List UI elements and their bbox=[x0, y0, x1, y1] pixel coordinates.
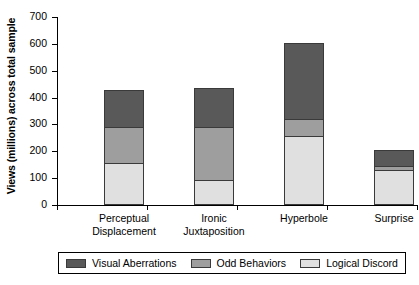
y-axis-tick-label: 0 bbox=[9, 198, 47, 210]
bar-segment[interactable] bbox=[374, 150, 414, 167]
x-axis-tick bbox=[417, 205, 418, 210]
bar-stack[interactable] bbox=[284, 43, 324, 205]
legend-swatch-icon bbox=[300, 259, 320, 268]
category-label-line: Surprise bbox=[344, 212, 419, 225]
y-axis-tick-label: 300 bbox=[9, 117, 47, 129]
bar-segment[interactable] bbox=[194, 127, 234, 181]
bar-stack[interactable] bbox=[104, 90, 144, 205]
x-axis-tick bbox=[237, 205, 238, 210]
legend-swatch-icon bbox=[191, 259, 211, 268]
legend-label: Visual Aberrations bbox=[92, 257, 176, 269]
x-axis-category-label: Hyperbole bbox=[254, 212, 354, 225]
legend-item[interactable]: Logical Discord bbox=[300, 257, 398, 269]
y-axis-tick bbox=[52, 71, 57, 72]
y-axis-tick-label: 600 bbox=[9, 37, 47, 49]
x-axis-category-label: Surprise bbox=[344, 212, 419, 225]
legend-item[interactable]: Odd Behaviors bbox=[191, 257, 286, 269]
y-axis-tick bbox=[52, 98, 57, 99]
y-axis-tick-label: 100 bbox=[9, 171, 47, 183]
plot-area: 0100200300400500600700 bbox=[57, 17, 417, 205]
y-axis-tick bbox=[52, 17, 57, 18]
bar-stack[interactable] bbox=[374, 150, 414, 205]
bar-stack[interactable] bbox=[194, 88, 234, 205]
y-axis-tick bbox=[52, 44, 57, 45]
bar-segment[interactable] bbox=[284, 43, 324, 120]
chart-legend: Visual AberrationsOdd BehaviorsLogical D… bbox=[58, 252, 406, 274]
y-axis-tick bbox=[52, 151, 57, 152]
bar-segment[interactable] bbox=[284, 136, 324, 205]
legend-label: Odd Behaviors bbox=[217, 257, 286, 269]
x-axis-category-label: PerceptualDisplacement bbox=[74, 212, 174, 237]
bar-segment[interactable] bbox=[194, 180, 234, 206]
bar-segment[interactable] bbox=[104, 90, 144, 127]
legend-label: Logical Discord bbox=[326, 257, 398, 269]
bar-segment[interactable] bbox=[104, 127, 144, 165]
y-axis-tick-label: 500 bbox=[9, 64, 47, 76]
x-axis-tick bbox=[147, 205, 148, 210]
y-axis-tick bbox=[52, 178, 57, 179]
category-label-line: Juxtaposition bbox=[164, 225, 264, 238]
category-label-line: Hyperbole bbox=[254, 212, 354, 225]
x-axis-tick bbox=[57, 205, 58, 210]
x-axis-category-label: IronicJuxtaposition bbox=[164, 212, 264, 237]
stacked-bar-chart: Views (millions) across total sample 010… bbox=[0, 0, 419, 285]
y-axis-tick-label: 400 bbox=[9, 91, 47, 103]
y-axis-tick-label: 700 bbox=[9, 10, 47, 22]
y-axis-line bbox=[57, 17, 58, 205]
bar-segment[interactable] bbox=[284, 119, 324, 137]
bar-segment[interactable] bbox=[104, 163, 144, 205]
category-label-line: Perceptual bbox=[74, 212, 174, 225]
y-axis-tick-label: 200 bbox=[9, 144, 47, 156]
bar-segment[interactable] bbox=[374, 170, 414, 205]
category-label-line: Ironic bbox=[164, 212, 264, 225]
category-label-line: Displacement bbox=[74, 225, 174, 238]
bar-segment[interactable] bbox=[194, 88, 234, 128]
x-axis-tick bbox=[327, 205, 328, 210]
legend-swatch-icon bbox=[66, 259, 86, 268]
y-axis-tick bbox=[52, 124, 57, 125]
legend-item[interactable]: Visual Aberrations bbox=[66, 257, 176, 269]
